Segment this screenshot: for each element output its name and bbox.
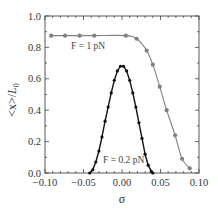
marker-f02 [125,69,128,72]
marker-f02 [116,69,119,72]
marker-f1 [180,157,184,161]
series-layer [49,34,192,175]
marker-f02 [97,149,100,152]
marker-f02 [131,91,134,94]
marker-f1 [165,108,169,112]
series-f1 [49,34,192,171]
marker-f1 [63,34,67,38]
plot-frame [45,16,199,173]
marker-f02 [100,135,103,138]
y-axis-title-main: <x>/ [5,93,19,117]
marker-f1 [124,34,128,38]
marker-f1 [92,34,96,38]
x-tick-label: 0.10 [190,177,208,188]
marker-f02 [103,120,106,123]
x-tick-label: 0.00 [113,177,131,188]
y-axis-title-sub: 0 [12,83,21,87]
y-tick-label: 0.2 [28,136,41,147]
x-tick-label: 0.05 [151,177,169,188]
marker-f02 [137,121,140,124]
marker-f02 [134,105,137,108]
y-tick-label: 0.6 [28,73,41,84]
axis-ticks [45,16,199,173]
y-tick-label: 0.4 [28,105,42,116]
x-tick-labels: −0.10−0.050.000.050.10 [33,177,208,188]
x-tick-label: −0.10 [33,177,57,188]
x-axis-title: σ [119,192,126,206]
annotation-f1: F = 1 pN [71,41,105,51]
chart: 0.00.20.40.60.81.0 −0.10−0.050.000.050.1… [0,0,218,209]
line-f1 [51,35,190,168]
x-tick-label: −0.05 [71,177,95,188]
marker-f1 [145,48,149,52]
marker-f1 [78,34,82,38]
marker-f02 [128,79,131,82]
marker-f02 [94,160,97,163]
marker-f1 [158,85,162,89]
marker-f02 [107,105,110,108]
marker-f02 [122,65,125,68]
marker-f02 [119,65,122,68]
y-tick-label: 0.8 [28,42,41,53]
marker-f1 [173,133,177,137]
annotation-f02: F = 0.2 pN [103,155,144,165]
marker-f1 [151,63,155,67]
marker-f02 [110,91,113,94]
marker-f02 [91,168,94,171]
marker-f02 [113,79,116,82]
marker-f1 [49,34,53,38]
marker-f02 [140,137,143,140]
y-axis-title: <x>/L0 [5,83,21,117]
marker-f1 [135,37,139,41]
marker-f02 [151,171,154,174]
y-tick-labels: 0.00.20.40.60.81.0 [28,11,42,179]
marker-f02 [147,164,150,167]
marker-f1 [188,166,192,170]
y-tick-label: 1.0 [28,11,41,22]
marker-f02 [88,171,91,174]
